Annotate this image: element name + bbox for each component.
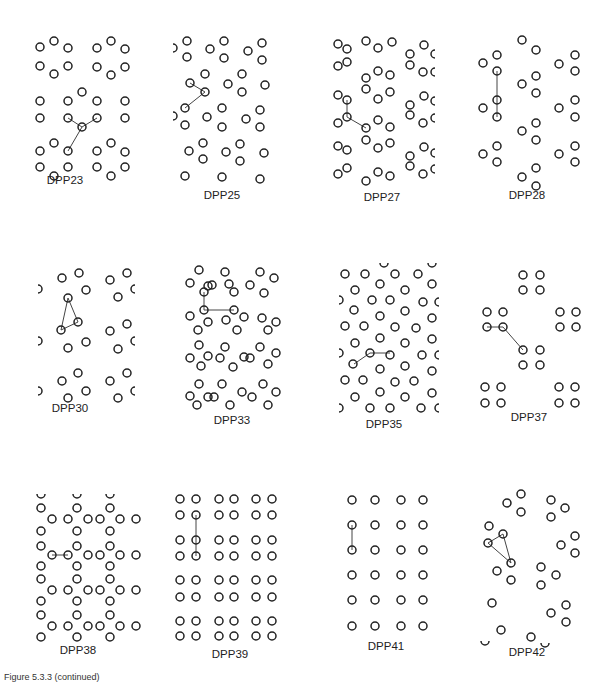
dot-icon	[368, 296, 376, 304]
dot-icon	[36, 163, 44, 171]
panel-dpp30: DPP30	[38, 269, 135, 414]
dot-icon	[518, 127, 526, 135]
panel-dpp42: DPP42	[481, 490, 579, 658]
dot-icon	[555, 383, 563, 391]
dot-icon	[230, 511, 238, 519]
dot-icon	[82, 387, 90, 395]
partial-dot-icon	[435, 404, 439, 412]
dot-icon	[272, 349, 280, 357]
dot-icon	[518, 36, 526, 44]
dot-icon	[78, 88, 86, 96]
dot-icon	[519, 286, 527, 294]
dot-icon	[123, 320, 131, 328]
panel-label: DPP28	[509, 189, 545, 201]
dot-icon	[176, 617, 184, 625]
dot-icon	[264, 360, 272, 368]
dot-icon	[106, 327, 114, 335]
dot-icon	[64, 622, 72, 630]
dot-icon	[64, 586, 72, 594]
dot-icon	[552, 571, 560, 579]
dot-icon	[230, 288, 238, 296]
partial-dot-icon	[431, 50, 435, 58]
dot-icon	[73, 633, 81, 641]
dot-icon	[256, 268, 264, 276]
dot-icon	[555, 104, 563, 112]
dot-icon	[252, 552, 260, 560]
dot-icon	[218, 104, 226, 112]
dot-icon	[256, 343, 264, 351]
dot-icon	[497, 626, 505, 634]
partial-dot-icon	[481, 641, 489, 645]
dot-icon	[507, 576, 515, 584]
dot-icon	[493, 567, 501, 575]
dot-icon	[176, 536, 184, 544]
dot-icon	[252, 576, 260, 584]
dot-icon	[252, 495, 260, 503]
dot-icon	[93, 97, 101, 105]
dot-icon	[334, 142, 342, 150]
dot-icon	[107, 71, 115, 79]
dot-icon	[204, 352, 212, 360]
dot-icon	[215, 511, 223, 519]
dot-icon	[488, 599, 496, 607]
dot-icon	[547, 496, 555, 504]
dot-icon	[397, 521, 405, 529]
dot-icon	[532, 164, 540, 172]
dot-icon	[106, 562, 114, 570]
partial-dot-icon	[431, 97, 435, 105]
dot-icon	[64, 97, 72, 105]
dot-icon	[230, 552, 238, 560]
dot-icon	[93, 44, 101, 52]
dot-icon	[73, 562, 81, 570]
dot-icon	[37, 633, 45, 641]
dot-icon	[334, 170, 342, 178]
dot-icon	[268, 632, 276, 640]
panel-label: DPP27	[364, 191, 400, 203]
dot-icon	[362, 177, 370, 185]
dot-icon	[181, 121, 189, 129]
dot-icon	[230, 632, 238, 640]
dot-icon	[532, 119, 540, 127]
dot-icon	[532, 46, 540, 54]
panel-dpp25: DPP25	[173, 37, 269, 201]
dot-icon	[106, 377, 114, 385]
dot-icon	[517, 508, 525, 516]
dot-icon	[268, 617, 276, 625]
dot-icon	[571, 383, 579, 391]
dot-icon	[238, 388, 246, 396]
dot-icon	[268, 576, 276, 584]
dot-icon	[216, 354, 224, 362]
dot-icon	[36, 97, 44, 105]
dot-icon	[376, 388, 384, 396]
dot-icon	[37, 504, 45, 512]
dot-icon	[366, 404, 374, 412]
partial-dot-icon	[431, 165, 435, 173]
dot-icon	[397, 596, 405, 604]
dot-icon	[406, 61, 414, 69]
dot-icon	[272, 318, 280, 326]
partial-dot-icon	[380, 263, 388, 267]
dot-icon	[268, 552, 276, 560]
dot-icon	[497, 383, 505, 391]
dot-icon	[555, 399, 563, 407]
partial-dot-icon	[106, 494, 114, 498]
dot-icon	[193, 401, 201, 409]
dot-icon	[37, 575, 45, 583]
dot-icon	[547, 513, 555, 521]
dot-icon	[248, 393, 256, 401]
dot-icon	[499, 308, 507, 316]
dot-icon	[64, 44, 72, 52]
dot-icon	[195, 380, 203, 388]
dot-icon	[116, 586, 124, 594]
dot-icon	[176, 552, 184, 560]
partial-dot-icon	[38, 337, 42, 345]
dot-icon	[96, 515, 104, 523]
dot-icon	[518, 80, 526, 88]
dot-icon	[73, 527, 81, 535]
dot-icon	[481, 383, 489, 391]
dot-icon	[242, 115, 250, 123]
dot-icon	[348, 622, 356, 630]
dot-icon	[371, 496, 379, 504]
dot-icon	[555, 60, 563, 68]
dot-icon	[215, 536, 223, 544]
